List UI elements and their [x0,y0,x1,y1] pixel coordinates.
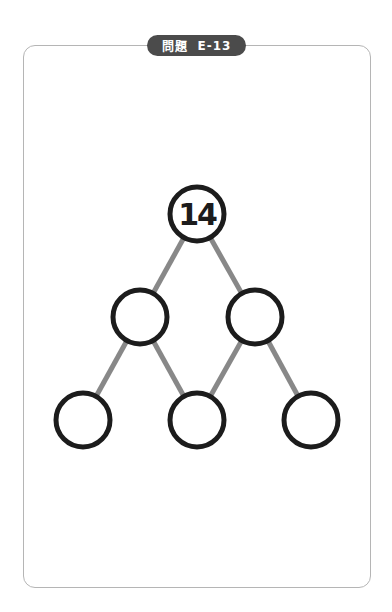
node-bottom-left[interactable] [56,393,110,447]
node-bottom-middle[interactable] [170,393,224,447]
node-mid-right[interactable] [228,290,282,344]
node-top-value: 14 [178,197,217,232]
pyramid-diagram: 14 [0,0,392,612]
node-mid-left[interactable] [113,290,167,344]
node-bottom-right[interactable] [284,393,338,447]
